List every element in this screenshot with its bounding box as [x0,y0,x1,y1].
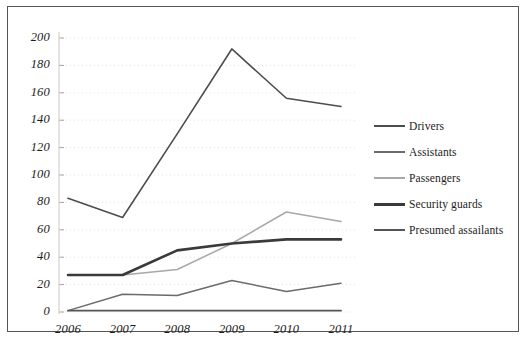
y-tick-label: 120 [14,140,50,155]
x-tick-label: 2006 [44,322,92,337]
legend-item-assistants[interactable]: Assistants [374,139,524,165]
series-line-assistants [68,280,341,310]
chart-legend: DriversAssistantsPassengersSecurity guar… [374,113,524,243]
y-tick-label: 180 [14,57,50,72]
y-tick-label: 60 [14,222,50,237]
gridlines [59,38,355,312]
y-tick-label: 160 [14,85,50,100]
y-tick-label: 140 [14,112,50,127]
series-line-passengers [68,212,341,275]
plot-area: 020406080100120140160180200 200620072008… [8,7,518,331]
x-tick-label: 2010 [262,322,310,337]
x-tick-label: 2007 [99,322,147,337]
y-tick-label: 20 [14,277,50,292]
legend-line-swatch [374,177,405,179]
legend-line-swatch [374,151,405,153]
legend-label: Drivers [409,120,444,132]
legend-label: Assistants [409,146,457,158]
legend-line-swatch [374,229,405,231]
x-tick-label: 2009 [208,322,256,337]
series-line-drivers [68,49,341,218]
x-tick-label: 2008 [153,322,201,337]
y-tick-label: 100 [14,167,50,182]
y-tick-label: 80 [14,194,50,209]
y-tick-label: 40 [14,249,50,264]
legend-label: Presumed assailants [409,224,503,236]
legend-line-swatch [374,203,405,206]
series-lines [68,49,341,311]
y-tick-label: 0 [14,304,50,319]
legend-item-security-guards[interactable]: Security guards [374,191,524,217]
legend-item-drivers[interactable]: Drivers [374,113,524,139]
x-tick-label: 2011 [317,322,365,337]
chart-frame: 020406080100120140160180200 200620072008… [7,6,519,332]
legend-label: Passengers [409,172,460,184]
legend-label: Security guards [409,198,482,210]
legend-item-presumed-assailants[interactable]: Presumed assailants [374,217,524,243]
y-tick-label: 200 [14,30,50,45]
legend-item-passengers[interactable]: Passengers [374,165,524,191]
legend-line-swatch [374,125,405,127]
